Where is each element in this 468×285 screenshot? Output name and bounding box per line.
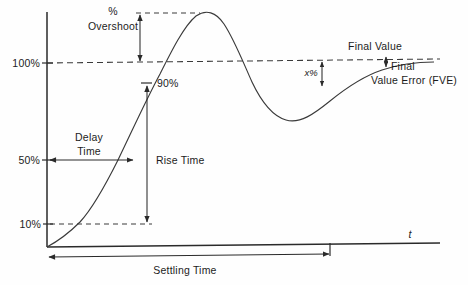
figure-container: % Overshoot 100% 50% 10% 90% Delay Time … xyxy=(0,0,468,285)
y-tick-label-50: 50% xyxy=(18,154,40,166)
rise-time-label: Rise Time xyxy=(156,154,204,166)
delay-time-label-line1: Delay xyxy=(75,131,103,143)
time-axis-label: t xyxy=(408,228,412,240)
fve-label-line1: Final xyxy=(391,60,415,72)
overshoot-label-line2: Overshoot xyxy=(88,20,138,32)
final-value-label: Final Value xyxy=(348,40,402,52)
overshoot-label-line1: % xyxy=(108,5,118,17)
ninety-percent-label: 90% xyxy=(157,77,179,89)
fve-label-line2: Value Error (FVE) xyxy=(371,74,457,86)
y-tick-label-10: 10% xyxy=(19,218,41,230)
step-response-diagram: % Overshoot 100% 50% 10% 90% Delay Time … xyxy=(0,0,468,285)
delay-time-label-line2: Time xyxy=(77,145,101,157)
x-percent-label: x% xyxy=(303,67,318,78)
y-tick-label-100: 100% xyxy=(12,57,40,69)
x-axis xyxy=(47,243,440,247)
settling-time-label: Settling Time xyxy=(153,264,216,276)
